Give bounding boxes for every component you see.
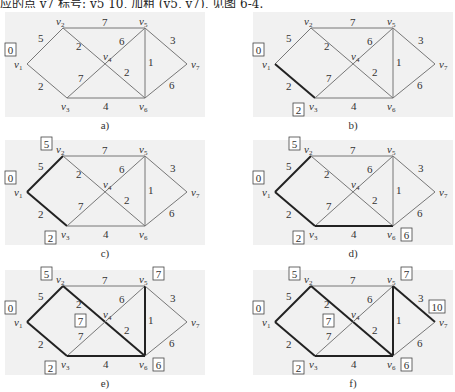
edge-weight-label: 1: [148, 184, 154, 196]
node-mark-value: 7: [404, 268, 410, 280]
edge-weight-label: 2: [324, 40, 330, 52]
edge-weight-label: 6: [169, 337, 175, 349]
node-mark-value: 2: [296, 104, 302, 116]
edge-weight-label: 7: [102, 144, 108, 156]
edge-weight-label: 6: [367, 293, 373, 305]
edge-weight-label: 2: [76, 40, 82, 52]
edge-weight-label: 2: [38, 208, 44, 220]
edge-weight-label: 6: [417, 337, 423, 349]
edge-weight-label: 3: [170, 162, 176, 174]
edge-weight-label: 2: [124, 66, 130, 78]
edge-weight-label: 6: [169, 207, 175, 219]
graph-panel-f: 52726724136v1v2v3v4v5v6v705267710f): [253, 267, 453, 390]
panel-caption: c): [101, 247, 110, 260]
node-mark-value: 0: [8, 44, 14, 56]
node-mark-value: 0: [8, 302, 14, 314]
edge-weight-label: 6: [367, 35, 373, 47]
edge-weight-label: 2: [286, 338, 292, 350]
edge-weight-label: 1: [396, 184, 402, 196]
edge-weight-label: 6: [417, 207, 423, 219]
edge-weight-label: 4: [351, 100, 357, 112]
edge-weight-label: 4: [103, 100, 109, 112]
graph-panel-c: 52726724136v1v2v3v4v5v6v7052c): [5, 137, 205, 260]
edge-weight-label: 4: [103, 228, 109, 240]
edge-weight-label: 1: [396, 56, 402, 68]
node-mark-value: 6: [404, 359, 410, 371]
edge-weight-label: 1: [148, 56, 154, 68]
edge-weight-label: 6: [119, 293, 125, 305]
panel-caption: f): [349, 377, 357, 390]
node-mark-value: 5: [44, 138, 50, 150]
edge-weight-label: 7: [350, 16, 356, 28]
edge-weight-label: 5: [38, 160, 44, 172]
edge-weight-label: 4: [351, 358, 357, 370]
edge-weight-label: 2: [76, 168, 82, 180]
node-mark-value: 0: [256, 172, 262, 184]
edge-weight-label: 6: [367, 163, 373, 175]
edge-weight-label: 4: [351, 228, 357, 240]
panel-caption: a): [101, 119, 110, 132]
edge-weight-label: 6: [417, 79, 423, 91]
edge-weight-label: 2: [372, 324, 378, 336]
node-mark-value: 10: [432, 301, 444, 313]
edge-weight-label: 7: [78, 330, 84, 342]
edge-weight-label: 2: [286, 208, 292, 220]
edge-weight-label: 2: [372, 66, 378, 78]
node-mark-value: 0: [256, 302, 262, 314]
edge-weight-label: 2: [324, 168, 330, 180]
edge-weight-label: 5: [286, 32, 292, 44]
edge-weight-label: 7: [102, 16, 108, 28]
edge-weight-label: 6: [119, 35, 125, 47]
edge-weight-label: 4: [103, 358, 109, 370]
edge-weight-label: 3: [418, 292, 424, 304]
edge-weight-label: 3: [170, 292, 176, 304]
edge-weight-label: 2: [124, 324, 130, 336]
panel-caption: e): [101, 377, 110, 390]
edge-weight-label: 2: [286, 80, 292, 92]
edge-weight-label: 6: [119, 163, 125, 175]
edge-weight-label: 3: [418, 34, 424, 46]
node-mark-value: 5: [292, 268, 298, 280]
node-mark-value: 7: [156, 268, 162, 280]
graph-panel-a: 52726724136v1v2v3v4v5v6v70a): [5, 12, 205, 132]
edge-weight-label: 7: [326, 72, 332, 84]
edge-weight-label: 7: [78, 200, 84, 212]
node-mark-value: 2: [48, 232, 54, 244]
node-mark-value: 2: [296, 362, 302, 374]
node-mark-value: 6: [156, 359, 162, 371]
edge-weight-label: 5: [38, 32, 44, 44]
edge-weight-label: 5: [286, 160, 292, 172]
edge-weight-label: 3: [418, 162, 424, 174]
edge-weight-label: 7: [326, 330, 332, 342]
graph-panel-d: 52726724136v1v2v3v4v5v6v70526d): [253, 137, 453, 260]
edge-weight-label: 2: [38, 338, 44, 350]
edge-weight-label: 2: [372, 194, 378, 206]
dijkstra-diagram-figure: 52726724136v1v2v3v4v5v6v70a)52726724136v…: [0, 0, 455, 392]
node-mark-value: 5: [44, 268, 50, 280]
edge-weight-label: 2: [124, 194, 130, 206]
node-mark-value: 0: [8, 172, 14, 184]
edge-weight-label: 1: [148, 314, 154, 326]
graph-panel-e: 52726724136v1v2v3v4v5v6v7052677e): [5, 267, 205, 390]
edge-weight-label: 7: [350, 274, 356, 286]
edge-weight-label: 5: [38, 290, 44, 302]
edge-weight-label: 5: [286, 290, 292, 302]
node-mark-value: 2: [48, 362, 54, 374]
graph-panel-b: 52726724136v1v2v3v4v5v6v702b): [253, 12, 453, 132]
edge-weight-label: 6: [169, 79, 175, 91]
edge-weight-label: 1: [396, 314, 402, 326]
node-mark-value: 7: [326, 315, 332, 327]
edge-weight-label: 3: [170, 34, 176, 46]
node-mark-value: 7: [78, 315, 84, 327]
edge-weight-label: 7: [326, 200, 332, 212]
edge-weight-label: 2: [324, 298, 330, 310]
panel-caption: b): [348, 119, 358, 132]
node-mark-value: 5: [292, 138, 298, 150]
panel-caption: d): [348, 247, 358, 260]
edge-weight-label: 7: [78, 72, 84, 84]
node-mark-value: 0: [256, 44, 262, 56]
node-mark-value: 2: [296, 232, 302, 244]
edge-weight-label: 7: [102, 274, 108, 286]
edge-weight-label: 2: [76, 298, 82, 310]
edge-weight-label: 2: [38, 80, 44, 92]
